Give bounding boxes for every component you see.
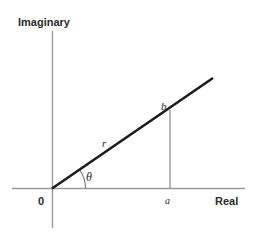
modulus-label: r (102, 137, 107, 149)
imaginary-axis-label: Imaginary (18, 16, 71, 28)
imaginary-component-label: b (161, 100, 167, 112)
real-component-label: a (165, 195, 170, 206)
argand-diagram: Imaginary Real 0 a b r θ (0, 0, 261, 238)
origin-label: 0 (38, 195, 44, 207)
real-axis-label: Real (215, 195, 238, 207)
angle-label: θ (86, 170, 92, 184)
